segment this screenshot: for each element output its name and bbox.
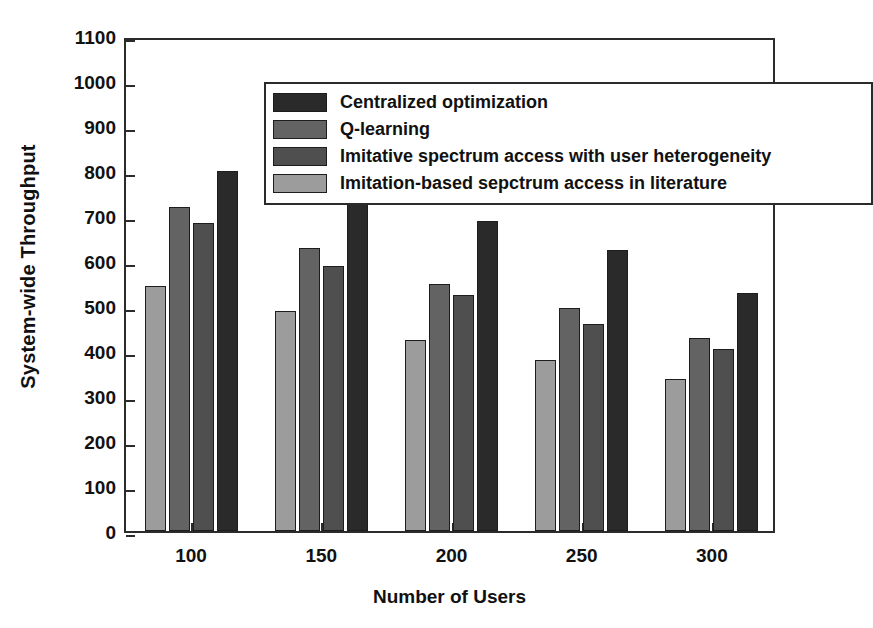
bar [193,223,214,531]
bar [347,197,368,531]
legend-label: Imitative spectrum access with user hete… [340,146,771,167]
y-tick-label: 300 [4,387,124,409]
y-tick-mark [126,85,135,87]
x-tick-label: 300 [652,545,772,567]
y-tick-label: 900 [4,117,124,139]
x-tick-label: 200 [392,545,512,567]
legend-item: Imitative spectrum access with user hete… [273,143,864,170]
y-tick-label: 1100 [4,27,124,49]
y-tick-label: 700 [4,207,124,229]
bar [689,338,710,532]
y-tick-mark [126,175,135,177]
x-axis-title: Number of Users [124,586,775,608]
bar [665,379,686,531]
y-tick-mark [126,355,135,357]
y-tick-label: 100 [4,477,124,499]
y-tick-label: 200 [4,432,124,454]
legend-label: Imitation-based sepctrum access in liter… [340,173,727,194]
bar [607,250,628,531]
y-tick-mark [126,445,135,447]
bar [477,221,498,531]
x-tick-label: 250 [522,545,642,567]
legend-item: Centralized optimization [273,89,864,116]
legend-swatch [273,120,327,139]
y-tick-mark [126,40,135,42]
legend-swatch [273,93,327,112]
bar [535,360,556,531]
chart-legend: Centralized optimizationQ-learningImitat… [264,82,873,205]
bar [299,248,320,532]
bar [169,207,190,531]
legend-swatch [273,174,327,193]
bar [559,308,580,531]
legend-label: Q-learning [340,119,430,140]
legend-swatch [273,147,327,166]
bar [217,171,238,531]
bar [429,284,450,532]
y-tick-mark [126,400,135,402]
bar [275,311,296,532]
bar [145,286,166,531]
y-tick-mark [126,490,135,492]
plot-area: 100150200250300 Centralized optimization… [124,38,775,533]
x-tick-label: 100 [131,545,251,567]
legend-item: Imitation-based sepctrum access in liter… [273,170,864,197]
legend-item: Q-learning [273,116,864,143]
y-tick-mark [126,310,135,312]
y-tick-mark [126,220,135,222]
y-tick-label: 800 [4,162,124,184]
y-tick-label: 1000 [4,72,124,94]
bar [737,293,758,531]
legend-label: Centralized optimization [340,92,548,113]
bar [583,324,604,531]
y-tick-label: 400 [4,342,124,364]
y-tick-label: 0 [4,522,124,544]
y-tick-mark [126,130,135,132]
x-tick-label: 150 [261,545,381,567]
bar [405,340,426,531]
y-tick-label: 600 [4,252,124,274]
bar [713,349,734,531]
bar [453,295,474,531]
bar [323,266,344,532]
y-tick-mark [126,535,135,537]
y-tick-mark [126,265,135,267]
y-tick-label: 500 [4,297,124,319]
